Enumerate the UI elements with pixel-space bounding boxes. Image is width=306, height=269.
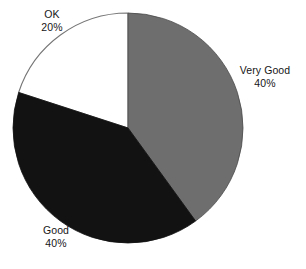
pie-label-good: Good 40% [32, 224, 80, 249]
pie-label-very-good-name: Very Good [234, 64, 296, 77]
pie-label-good-name: Good [32, 224, 80, 237]
pie-label-very-good: Very Good 40% [234, 64, 296, 89]
pie-label-ok: OK 20% [30, 8, 74, 33]
pie-label-good-value: 40% [32, 237, 80, 250]
pie-label-ok-value: 20% [30, 21, 74, 34]
pie-label-very-good-value: 40% [234, 77, 296, 90]
pie-chart: OK 20% Very Good 40% Good 40% [0, 0, 306, 269]
pie-label-ok-name: OK [30, 8, 74, 21]
